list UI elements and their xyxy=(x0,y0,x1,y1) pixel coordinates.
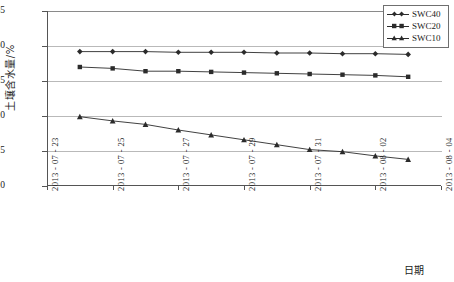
line-chart: 土壤含水量/% 101520253035 2013 - 07 - 232013 … xyxy=(0,0,454,282)
legend-marker-diamond-icon xyxy=(387,9,409,19)
x-tick-label: 2013 - 07 - 31 xyxy=(314,137,323,191)
x-tick-mark xyxy=(375,186,376,190)
y-tick-label: 35 xyxy=(0,6,5,16)
x-tick-label: 2013 - 08 - 02 xyxy=(379,137,388,191)
legend-label: SWC40 xyxy=(412,9,441,19)
legend-item[interactable]: SWC40 xyxy=(387,8,445,20)
x-tick-mark xyxy=(178,186,179,190)
legend-label: SWC10 xyxy=(412,33,441,43)
x-tick-label: 2013 - 07 - 29 xyxy=(248,137,257,191)
legend-item[interactable]: SWC10 xyxy=(387,32,445,44)
x-tick-mark xyxy=(310,186,311,190)
legend-item[interactable]: SWC20 xyxy=(387,20,445,32)
y-tick-label: 20 xyxy=(0,111,5,121)
x-axis-title: 日期 xyxy=(404,262,424,277)
x-tick-mark xyxy=(113,186,114,190)
legend-label: SWC20 xyxy=(412,21,441,31)
x-tick-label: 2013 - 08 - 04 xyxy=(445,137,454,191)
gridline xyxy=(48,81,442,82)
x-tick-label: 2013 - 07 - 27 xyxy=(182,137,191,191)
y-axis-title: 土壤含水量/% xyxy=(5,30,16,126)
y-tick-label: 30 xyxy=(0,41,5,51)
x-tick-mark xyxy=(441,186,442,190)
legend-marker-square-icon xyxy=(387,21,409,31)
gridline xyxy=(48,116,442,117)
x-tick-mark xyxy=(244,186,245,190)
legend: SWC40 SWC20 SWC10 xyxy=(383,5,449,48)
y-tick-label: 25 xyxy=(0,76,5,86)
x-tick-mark xyxy=(47,186,48,190)
x-tick-label: 2013 - 07 - 23 xyxy=(51,137,60,191)
y-tick-label: 10 xyxy=(0,181,5,191)
legend-marker-triangle-icon xyxy=(387,33,409,43)
x-tick-label: 2013 - 07 - 25 xyxy=(117,137,126,191)
y-tick-label: 15 xyxy=(0,146,5,156)
